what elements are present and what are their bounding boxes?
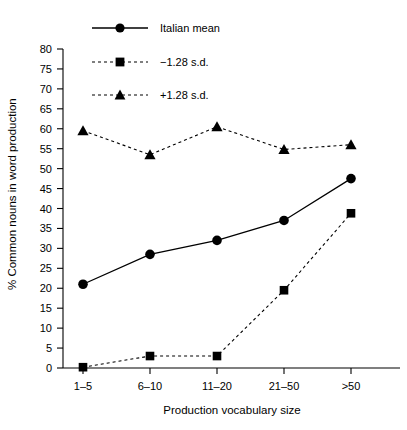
legend-item-plus-sd: +1.28 s.d. <box>92 89 209 101</box>
legend-item-italian-mean: Italian mean <box>92 22 220 34</box>
x-tick-label: 1–5 <box>74 380 92 392</box>
y-tick-label: 80 <box>40 43 52 55</box>
y-tick-label: 25 <box>40 262 52 274</box>
data-point-italian-mean-3 <box>279 216 289 226</box>
data-point-1-28-s-d-4 <box>347 209 356 218</box>
series-1-28-s-d <box>77 121 356 159</box>
chart-series-group <box>77 121 356 371</box>
y-tick-label: 5 <box>46 342 52 354</box>
y-axis-title: % Common nouns in word production <box>6 98 18 290</box>
x-tick-label: 11–20 <box>202 380 232 392</box>
legend-label-italian-mean: Italian mean <box>160 22 220 34</box>
y-tick-label: 45 <box>40 183 52 195</box>
y-tick-label: 0 <box>46 362 52 374</box>
x-axis-ticks: 1–56–1011–2021–50>50 <box>74 368 361 392</box>
y-axis-ticks: 05101520253035404550556065707580 <box>40 43 63 374</box>
y-tick-label: 10 <box>40 322 52 334</box>
data-point-italian-mean-2 <box>212 236 222 246</box>
y-tick-label: 35 <box>40 222 52 234</box>
data-point-1-28-s-d-1 <box>144 149 155 159</box>
y-tick-label: 70 <box>40 83 52 95</box>
y-tick-label: 65 <box>40 103 52 115</box>
series-1-28-s-d <box>79 209 356 372</box>
data-point-1-28-s-d-4 <box>345 139 356 149</box>
data-point-1-28-s-d-0 <box>77 125 88 135</box>
y-tick-label: 40 <box>40 203 52 215</box>
legend-label-plus-sd: +1.28 s.d. <box>160 89 209 101</box>
data-point-1-28-s-d-2 <box>211 121 222 131</box>
data-point-1-28-s-d-1 <box>146 352 155 361</box>
x-tick-label: 21–50 <box>269 380 300 392</box>
data-point-1-28-s-d-2 <box>213 352 222 361</box>
series-line-italian-mean <box>83 179 351 285</box>
legend-marker-square-icon <box>116 58 125 67</box>
legend-label-minus-sd: −1.28 s.d. <box>160 56 209 68</box>
y-tick-label: 30 <box>40 242 52 254</box>
legend-marker-circle-icon <box>115 23 124 32</box>
data-point-italian-mean-0 <box>78 279 88 289</box>
data-point-1-28-s-d-3 <box>280 286 289 295</box>
y-tick-label: 60 <box>40 123 52 135</box>
legend-item-minus-sd: −1.28 s.d. <box>92 56 209 68</box>
y-tick-label: 20 <box>40 282 52 294</box>
y-axis: 05101520253035404550556065707580 % Commo… <box>6 43 63 374</box>
chart-legend: Italian mean −1.28 s.d. +1.28 s.d. <box>92 22 220 101</box>
line-chart: Italian mean −1.28 s.d. +1.28 s.d. 05101… <box>0 0 407 430</box>
y-tick-label: 75 <box>40 63 52 75</box>
x-axis: 1–56–1011–2021–50>50 Production vocabula… <box>63 368 400 416</box>
x-tick-label: 6–10 <box>138 380 162 392</box>
y-tick-label: 15 <box>40 302 52 314</box>
y-tick-label: 50 <box>40 163 52 175</box>
data-point-1-28-s-d-0 <box>79 363 88 372</box>
data-point-italian-mean-4 <box>346 174 356 184</box>
series-italian-mean <box>78 174 356 289</box>
x-tick-label: >50 <box>342 380 361 392</box>
x-axis-title: Production vocabulary size <box>163 404 300 416</box>
data-point-italian-mean-1 <box>145 250 155 260</box>
chart-figure: Italian mean −1.28 s.d. +1.28 s.d. 05101… <box>0 0 407 430</box>
y-tick-label: 55 <box>40 143 52 155</box>
